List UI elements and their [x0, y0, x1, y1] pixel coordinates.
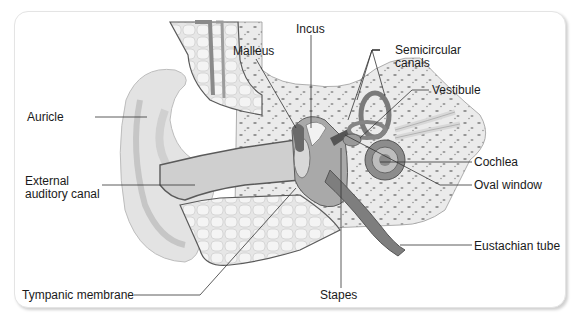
label-tympanic-membrane: Tympanic membrane	[22, 289, 134, 302]
label-oval-window: Oval window	[474, 179, 542, 192]
label-stapes: Stapes	[320, 289, 357, 302]
label-external-canal-line2: auditory canal	[25, 188, 100, 201]
label-vestibule: Vestibule	[432, 84, 481, 97]
label-auricle: Auricle	[27, 111, 64, 124]
label-malleus: Malleus	[233, 45, 274, 58]
label-eustachian-tube: Eustachian tube	[474, 240, 560, 253]
label-semicircular-line2: canals	[395, 57, 430, 70]
label-cochlea: Cochlea	[474, 156, 518, 169]
label-incus: Incus	[296, 23, 325, 36]
